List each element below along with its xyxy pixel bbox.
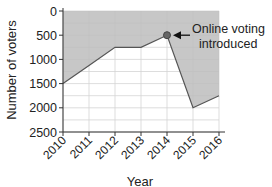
annotation-text-line1: Online voting	[192, 22, 265, 36]
x-ticks: 2010201120122013201420152016	[40, 132, 225, 162]
y-tick-label: 2500	[29, 126, 57, 140]
y-axis-label: Number of voters	[4, 20, 19, 120]
x-tick-label: 2013	[118, 133, 147, 162]
y-tick-label: 1000	[29, 53, 57, 67]
x-tick-label: 2015	[170, 133, 199, 162]
x-tick-label: 2011	[67, 133, 95, 161]
x-tick-label: 2012	[92, 133, 121, 162]
y-tick-label: 0	[50, 5, 57, 19]
y-ticks: 05001000150020002500	[29, 5, 63, 140]
x-tick-label: 2014	[144, 133, 173, 162]
voters-chart: 05001000150020002500 2010201120122013201…	[0, 0, 272, 187]
y-tick-label: 1500	[29, 77, 57, 91]
y-tick-label: 500	[36, 29, 57, 43]
annotation-text-line2: introduced	[199, 37, 257, 51]
annotation-marker	[164, 32, 171, 39]
y-tick-label: 2000	[29, 101, 57, 115]
x-axis-label: Year	[127, 174, 154, 187]
x-tick-label: 2016	[196, 133, 225, 162]
